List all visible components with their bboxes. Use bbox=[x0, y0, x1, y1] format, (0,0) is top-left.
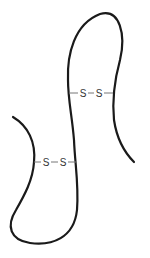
polypeptide-chain bbox=[11, 13, 134, 243]
protein-chain-diagram: S S S S bbox=[0, 0, 150, 258]
disulfide-bond-lower: S S bbox=[34, 157, 76, 168]
sulfur-label: S bbox=[80, 88, 87, 99]
sulfur-label: S bbox=[60, 157, 67, 168]
sulfur-label: S bbox=[43, 157, 50, 168]
disulfide-bond-upper: S S bbox=[69, 88, 113, 99]
sulfur-label: S bbox=[96, 88, 103, 99]
